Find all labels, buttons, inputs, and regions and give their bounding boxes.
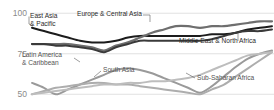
callout-label-south-asia: South Asia — [103, 66, 135, 73]
y-tick-label-100: 100 — [13, 8, 27, 18]
y-tick-label-50: 50 — [18, 89, 28, 99]
chart-container: 1007550 East Asia& PacificEurope & Centr… — [0, 0, 274, 110]
leader-line-1 — [143, 15, 150, 22]
callout-label-latin-america-line2: & Caribbean — [22, 59, 59, 66]
callout-label-sub-saharan-africa: Sub-Saharan Africa — [197, 74, 255, 81]
leader-line-3 — [74, 58, 80, 62]
series-lines-group — [32, 21, 272, 94]
callout-label-middle-east-north-africa: Middle East & North Africa — [179, 37, 256, 44]
callout-label-latin-america: Latin America — [22, 51, 62, 58]
line-chart: 1007550 East Asia& PacificEurope & Centr… — [0, 0, 274, 110]
callout-label-europe-central-asia: Europe & Central Asia — [77, 10, 142, 18]
callout-label-east-asia-line2: & Pacific — [30, 20, 56, 27]
callout-label-east-asia: East Asia — [30, 12, 58, 19]
